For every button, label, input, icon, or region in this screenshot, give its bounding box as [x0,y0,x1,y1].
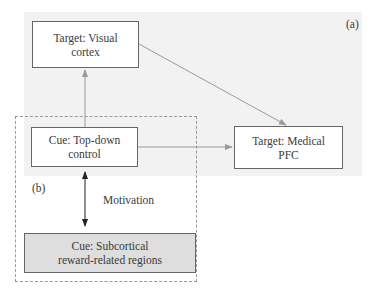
node-top-down-line1: Cue: Top-down [49,133,121,147]
panel-label-a: (a) [346,18,359,30]
node-visual-cortex-line1: Target: Visual [53,31,117,45]
node-subcortical-line1: Cue: Subcortical [58,239,162,253]
node-medical-pfc-line1: Target: Medical [252,134,325,148]
node-medical-pfc-line2: PFC [252,148,325,162]
arrow-visual-to-pfc [139,44,286,125]
node-top-down-line2: control [49,147,121,161]
node-top-down-control: Cue: Top-down control [31,127,138,167]
panel-label-b: (b) [32,182,45,194]
node-visual-cortex-line2: cortex [53,45,117,59]
node-subcortical-reward: Cue: Subcortical reward-related regions [24,233,196,273]
node-subcortical-line2: reward-related regions [58,253,162,267]
node-visual-cortex: Target: Visual cortex [32,21,139,68]
edge-label-motivation: Motivation [103,194,154,206]
node-medical-pfc: Target: Medical PFC [234,126,343,169]
